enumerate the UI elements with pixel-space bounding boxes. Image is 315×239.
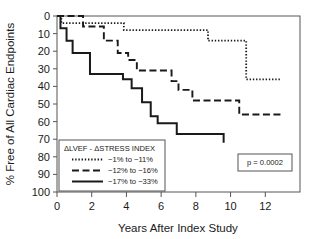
pvalue-annotation: p = 0.0002 [238, 154, 292, 171]
x-tick-label: 2 [89, 200, 95, 212]
x-tick-label: 12 [259, 200, 271, 212]
chart-legend: ΔLVEF - ΔSTRESS INDEX −1% to −11%−12% to… [59, 140, 165, 191]
y-tick-label: 20 [38, 45, 50, 57]
legend-entry-label: −1% to −11% [108, 155, 153, 164]
x-tick-label: 10 [224, 200, 236, 212]
x-axis-title: Years After Index Study [118, 222, 238, 234]
y-tick-label: 80 [38, 151, 50, 163]
y-tick-label: 50 [38, 98, 50, 110]
legend-entries: −1% to −11%−12% to −16%−17% to −33% [72, 155, 158, 186]
legend-entry-label: −12% to −16% [108, 166, 158, 175]
legend-entry-label: −17% to −33% [108, 177, 158, 186]
y-tick-label: 90 [38, 168, 50, 180]
y-axis-title: % Free of All Cardiac Endpoints [4, 23, 16, 186]
pvalue-text: p = 0.0002 [247, 158, 283, 167]
y-tick-label: 0 [44, 10, 50, 22]
y-tick-label: 60 [38, 116, 50, 128]
chart-svg: 1009080706050403020100 024681012 % Free … [0, 0, 315, 239]
legend-title: ΔLVEF - ΔSTRESS INDEX [64, 144, 155, 153]
y-tick-label: 100 [32, 186, 50, 198]
y-tick-label: 30 [38, 63, 50, 75]
y-tick-label: 70 [38, 133, 50, 145]
y-tick-label: 10 [38, 28, 50, 40]
x-tick-label: 8 [193, 200, 199, 212]
x-tick-label: 0 [54, 200, 60, 212]
kaplan-meier-chart: 1009080706050403020100 024681012 % Free … [0, 0, 315, 239]
y-tick-label: 40 [38, 80, 50, 92]
x-tick-label: 6 [158, 200, 164, 212]
x-tick-label: 4 [123, 200, 129, 212]
